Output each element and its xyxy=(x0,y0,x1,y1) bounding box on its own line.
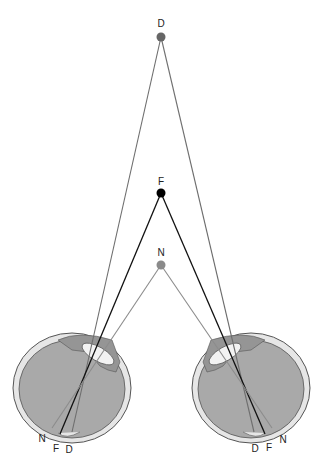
left-retina-label-n: N xyxy=(38,433,45,444)
fixation-point xyxy=(157,189,166,198)
binocular-diagram: D F N N F D D F N xyxy=(0,0,324,474)
distant-point xyxy=(157,33,166,42)
near-label: N xyxy=(157,247,164,258)
left-retina-label-d: D xyxy=(65,444,72,455)
right-retina-label-f: F xyxy=(266,442,272,453)
left-retina-label-f: F xyxy=(53,443,59,454)
distant-label: D xyxy=(157,18,164,29)
right-retina-label-n: N xyxy=(279,434,286,445)
left-eye xyxy=(13,333,131,443)
right-eye xyxy=(192,333,310,443)
fixation-label: F xyxy=(158,176,164,187)
near-point xyxy=(157,261,166,270)
right-retina-label-d: D xyxy=(251,443,258,454)
